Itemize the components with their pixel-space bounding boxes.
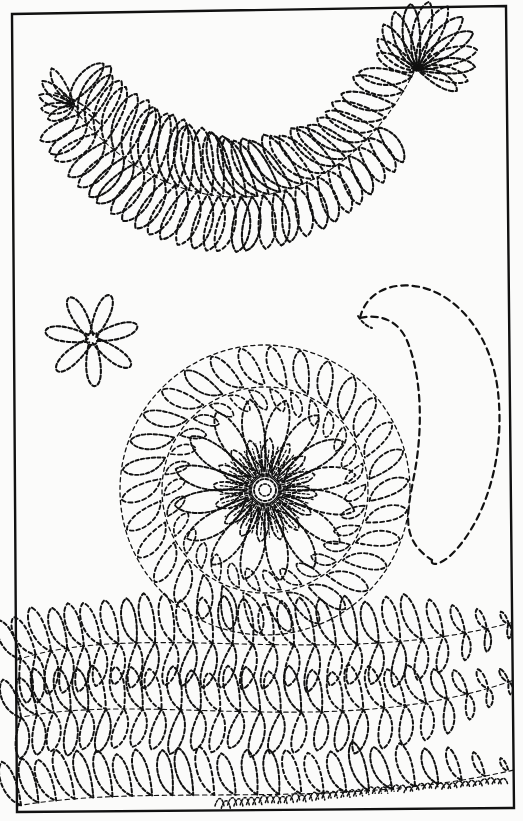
- quilting-pattern-artwork: [0, 0, 523, 821]
- pattern-page: [0, 0, 523, 821]
